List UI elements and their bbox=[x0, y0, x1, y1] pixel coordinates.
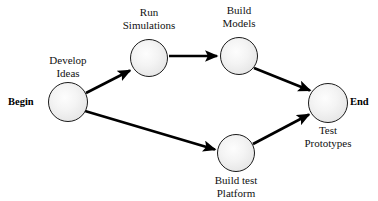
edge-build-models-to-test-prototypes bbox=[254, 68, 310, 91]
node-label-test-prototypes-line-2: Prototypes bbox=[293, 137, 363, 150]
node-label-build-models: Build Models bbox=[204, 4, 274, 29]
node-label-build-test-platform: Build test Platform bbox=[201, 174, 271, 199]
node-label-develop-ideas-line-2: Ideas bbox=[33, 67, 103, 80]
node-label-test-prototypes: Test Prototypes bbox=[293, 124, 363, 149]
node-build-models[interactable] bbox=[220, 37, 258, 75]
node-build-test-platform[interactable] bbox=[217, 134, 255, 172]
node-run-simulations[interactable] bbox=[130, 39, 168, 77]
begin-marker-label: Begin bbox=[8, 96, 34, 107]
node-label-run-simulations: Run Simulations bbox=[114, 6, 184, 31]
end-marker-label: End bbox=[350, 96, 369, 107]
process-network-diagram: Develop Ideas Run Simulations Build Mode… bbox=[0, 0, 378, 201]
node-label-build-models-line-2: Models bbox=[204, 17, 274, 30]
node-label-run-simulations-line-2: Simulations bbox=[114, 19, 184, 32]
node-label-build-test-platform-line-1: Build test bbox=[201, 174, 271, 187]
node-test-prototypes[interactable] bbox=[308, 83, 348, 123]
node-label-build-test-platform-line-2: Platform bbox=[201, 187, 271, 200]
node-label-develop-ideas-line-1: Develop bbox=[33, 54, 103, 67]
node-label-develop-ideas: Develop Ideas bbox=[33, 54, 103, 79]
node-label-run-simulations-line-1: Run bbox=[114, 6, 184, 19]
node-label-build-models-line-1: Build bbox=[204, 4, 274, 17]
node-label-test-prototypes-line-1: Test bbox=[293, 124, 363, 137]
node-develop-ideas[interactable] bbox=[48, 82, 88, 122]
edge-develop-ideas-to-build-test-platform bbox=[85, 111, 215, 150]
